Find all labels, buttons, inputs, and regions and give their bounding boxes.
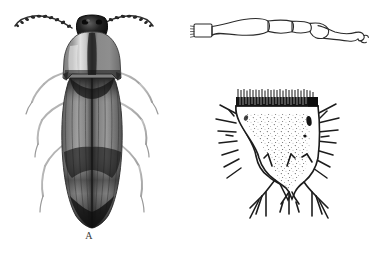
tarsomere-4 — [323, 38, 358, 41]
elytra — [62, 78, 122, 228]
tarsomere-3 — [318, 26, 356, 34]
figure-plate: A — [0, 0, 372, 262]
femur-segment — [212, 19, 270, 36]
panel-c-drawing — [196, 88, 362, 236]
panel-b-drawing — [188, 8, 370, 56]
anterior-dark-comb-band — [236, 89, 318, 107]
pronotal-median-stripe — [87, 33, 96, 75]
compound-eye-right — [96, 19, 102, 24]
panel-a-adult-beetle: A — [0, 0, 186, 262]
pronotum — [63, 32, 121, 81]
tibia-segment — [268, 20, 294, 33]
anterior-comb-teeth — [238, 89, 313, 97]
panel-c-larval-caudal-segment: C — [196, 88, 362, 236]
panel-a-label: A — [79, 230, 99, 241]
panel-b-leg: B — [188, 8, 370, 56]
antenna-left-segments — [15, 15, 71, 29]
coxa-segment — [194, 24, 212, 37]
panel-a-drawing — [0, 0, 186, 262]
tarsomere-1 — [292, 21, 311, 33]
